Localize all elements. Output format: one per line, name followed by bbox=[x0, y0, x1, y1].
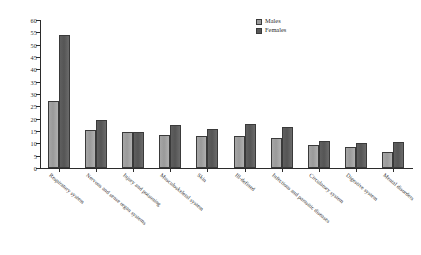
x-axis-label: Injury and poisoning bbox=[122, 172, 162, 207]
bar-group bbox=[85, 120, 107, 168]
x-tick-mark bbox=[356, 168, 357, 172]
y-tick-label: 10 bbox=[31, 140, 37, 147]
bar-females[interactable] bbox=[170, 125, 181, 168]
x-tick-mark bbox=[133, 168, 134, 172]
bar-males[interactable] bbox=[159, 135, 170, 168]
bar-females[interactable] bbox=[207, 129, 218, 168]
bar-females[interactable] bbox=[356, 143, 367, 168]
x-tick-mark bbox=[282, 168, 283, 172]
x-tick-mark bbox=[96, 168, 97, 172]
x-tick-mark bbox=[59, 168, 60, 172]
bar-males[interactable] bbox=[308, 145, 319, 168]
bar-group bbox=[234, 124, 256, 168]
y-tick-label: 5 bbox=[34, 152, 37, 159]
bar-group bbox=[345, 143, 367, 168]
bar-chart: 051015202530354045505560 Respiratory sys… bbox=[0, 0, 421, 255]
x-axis-label: Ill-defined bbox=[234, 172, 256, 192]
y-tick-label: 45 bbox=[31, 54, 37, 61]
y-tick-label: 30 bbox=[31, 91, 37, 98]
bar-males[interactable] bbox=[48, 101, 59, 168]
y-tick-label: 50 bbox=[31, 41, 37, 48]
x-axis-label: Skin bbox=[197, 172, 209, 183]
plot-area: 051015202530354045505560 bbox=[40, 20, 412, 168]
bar-group bbox=[382, 142, 404, 168]
x-axis-label: Nervous and sense organ systems bbox=[85, 172, 148, 226]
bar-group bbox=[271, 127, 293, 168]
bar-group bbox=[159, 125, 181, 168]
bar-females[interactable] bbox=[96, 120, 107, 168]
y-tick-label: 20 bbox=[31, 115, 37, 122]
bar-males[interactable] bbox=[234, 136, 245, 168]
bar-males[interactable] bbox=[196, 136, 207, 168]
y-tick-label: 35 bbox=[31, 78, 37, 85]
y-tick-label: 25 bbox=[31, 103, 37, 110]
x-tick-mark bbox=[170, 168, 171, 172]
bar-males[interactable] bbox=[271, 138, 282, 168]
bar-males[interactable] bbox=[382, 152, 393, 168]
bar-males[interactable] bbox=[85, 130, 96, 168]
x-axis-label: Mental disorders bbox=[383, 172, 416, 201]
x-axis-label: Respiratory system bbox=[48, 172, 86, 205]
y-tick-label: 40 bbox=[31, 66, 37, 73]
legend-label-males: Males bbox=[265, 18, 281, 24]
bar-group bbox=[122, 132, 144, 168]
x-axis-label: Digestive system bbox=[345, 172, 379, 202]
legend-swatch-males-icon bbox=[256, 19, 262, 25]
y-tick-label: 55 bbox=[31, 29, 37, 36]
bar-females[interactable] bbox=[59, 35, 70, 168]
bar-males[interactable] bbox=[122, 132, 133, 168]
bar-females[interactable] bbox=[319, 141, 330, 168]
bar-group bbox=[196, 129, 218, 168]
bar-females[interactable] bbox=[133, 132, 144, 168]
bar-group bbox=[48, 35, 70, 168]
y-tick-label: 60 bbox=[31, 17, 37, 24]
y-tick-label: 0 bbox=[34, 165, 37, 172]
x-tick-mark bbox=[393, 168, 394, 172]
x-tick-mark bbox=[207, 168, 208, 172]
bar-group bbox=[308, 141, 330, 168]
bar-females[interactable] bbox=[282, 127, 293, 168]
x-axis-label: Circulatory system bbox=[308, 172, 345, 204]
bar-males[interactable] bbox=[345, 147, 356, 168]
x-tick-mark bbox=[319, 168, 320, 172]
legend: Males Females bbox=[256, 17, 286, 35]
x-tick-mark bbox=[245, 168, 246, 172]
bar-females[interactable] bbox=[245, 124, 256, 168]
legend-label-females: Females bbox=[265, 27, 286, 33]
legend-item-males[interactable]: Males bbox=[256, 17, 286, 26]
bar-females[interactable] bbox=[393, 142, 404, 168]
legend-swatch-females-icon bbox=[256, 28, 262, 34]
legend-item-females[interactable]: Females bbox=[256, 26, 286, 35]
y-tick-label: 15 bbox=[31, 128, 37, 135]
